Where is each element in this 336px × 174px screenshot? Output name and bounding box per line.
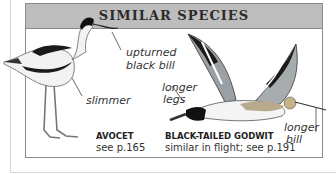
species-name-avocet: AVOCET xyxy=(96,131,134,142)
annotation-upturned: upturned xyxy=(126,47,176,59)
annotation-longer-legs-2: legs xyxy=(163,94,186,106)
avocet-illustration xyxy=(4,18,121,138)
species-name-godwit: BLACK-TAILED GODWIT xyxy=(165,131,274,142)
species-desc-avocet: see p.165 xyxy=(96,142,145,154)
annotation-slimmer: slimmer xyxy=(86,95,131,107)
species-desc-godwit: similar in flight; see p.191 xyxy=(165,142,296,154)
annotation-black-bill: black bill xyxy=(126,60,175,72)
